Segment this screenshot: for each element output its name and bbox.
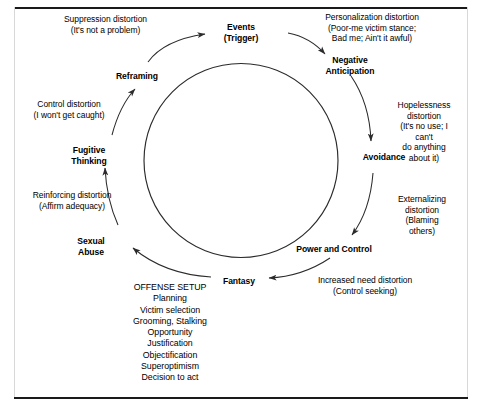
diagram-page: Events (Trigger) Negative Anticipation A… <box>0 0 480 405</box>
distortion-label-hopelessness: Hopelessness distortion (It's no use; I … <box>396 100 452 163</box>
arrow-avoidance-to-power-and-control <box>352 173 373 235</box>
distortion-label-reinforcing: Reinforcing distortion (Affirm adequacy) <box>33 190 112 211</box>
offense-setup-block: OFFENSE SETUP Planning Victim selection … <box>133 282 207 384</box>
stage-label-sexual-abuse: Sexual Abuse <box>77 236 104 257</box>
distortion-label-increased-need: Increased need distortion (Control seeki… <box>318 275 412 296</box>
stage-label-fugitive-thinking: Fugitive Thinking <box>71 145 106 166</box>
arrow-negative-anticipation-to-avoidance <box>351 76 371 141</box>
distortion-label-control: Control distortion (I won't get caught) <box>33 99 104 120</box>
cycle-circle <box>144 64 338 258</box>
stage-label-power-and-control: Power and Control <box>296 244 372 255</box>
arrow-reframing-to-events <box>148 34 205 62</box>
distortion-label-suppression: Suppression distortion (It's not a probl… <box>64 14 147 35</box>
distortion-label-personalization: Personalization distortion (Poor-me vict… <box>325 12 419 44</box>
stage-label-events: Events (Trigger) <box>224 22 258 43</box>
arrow-events-to-negative-anticipation <box>288 33 325 54</box>
stage-label-reframing: Reframing <box>116 71 158 82</box>
distortion-label-externalizing: Externalizing distortion (Blaming others… <box>393 194 451 236</box>
stage-label-negative-anticipation: Negative Anticipation <box>325 55 374 76</box>
arrow-fantasy-to-sexual-abuse <box>133 248 211 277</box>
stage-label-fantasy: Fantasy <box>223 276 255 287</box>
arrow-fugitive-thinking-to-reframing <box>112 89 135 135</box>
